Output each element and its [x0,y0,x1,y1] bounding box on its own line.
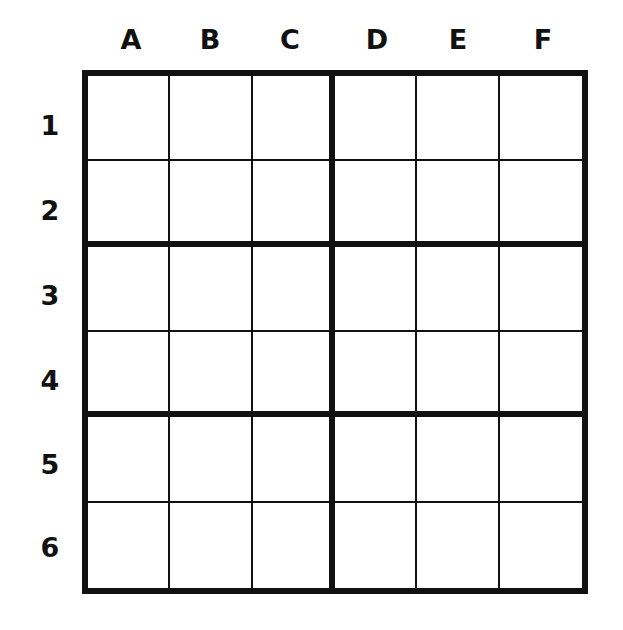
grid-cell-e3[interactable] [417,247,499,332]
grid-cell-b1[interactable] [170,76,252,161]
grid-cell-a5[interactable] [88,417,170,502]
grid-cell-a3[interactable] [88,247,170,332]
grid-cell-c2[interactable] [253,161,335,246]
grid-cell-e2[interactable] [417,161,499,246]
row-label-4: 4 [30,367,70,394]
grid-cell-d5[interactable] [335,417,417,502]
grid-cell-a1[interactable] [88,76,170,161]
grid-cell-a2[interactable] [88,161,170,246]
sudoku-grid [82,70,588,594]
grid-cell-e1[interactable] [417,76,499,161]
grid-cell-f6[interactable] [500,503,582,588]
grid-cell-f4[interactable] [500,332,582,417]
column-label-e: E [438,26,478,53]
grid-cell-f5[interactable] [500,417,582,502]
grid-cell-d6[interactable] [335,503,417,588]
grid-cell-d4[interactable] [335,332,417,417]
grid-cell-d2[interactable] [335,161,417,246]
grid-cell-a6[interactable] [88,503,170,588]
column-label-f: F [523,26,563,53]
row-label-3: 3 [30,282,70,309]
grid-cell-b6[interactable] [170,503,252,588]
row-label-2: 2 [30,197,70,224]
grid-cell-a4[interactable] [88,332,170,417]
grid-cell-f3[interactable] [500,247,582,332]
grid-cell-b2[interactable] [170,161,252,246]
column-label-d: D [357,26,397,53]
row-label-1: 1 [30,112,70,139]
column-label-b: B [190,26,230,53]
grid-cell-b5[interactable] [170,417,252,502]
grid-cell-c1[interactable] [253,76,335,161]
grid-cell-c6[interactable] [253,503,335,588]
row-label-6: 6 [30,534,70,561]
grid-cell-f2[interactable] [500,161,582,246]
grid-cell-e4[interactable] [417,332,499,417]
column-label-a: A [111,26,151,53]
grid-cell-c5[interactable] [253,417,335,502]
grid-cell-e5[interactable] [417,417,499,502]
grid-cell-d3[interactable] [335,247,417,332]
grid-cell-b4[interactable] [170,332,252,417]
grid-cell-c4[interactable] [253,332,335,417]
grid-cell-c3[interactable] [253,247,335,332]
row-label-5: 5 [30,451,70,478]
grid-cell-e6[interactable] [417,503,499,588]
grid-cell-b3[interactable] [170,247,252,332]
grid-cell-d1[interactable] [335,76,417,161]
grid-cell-f1[interactable] [500,76,582,161]
column-label-c: C [270,26,310,53]
